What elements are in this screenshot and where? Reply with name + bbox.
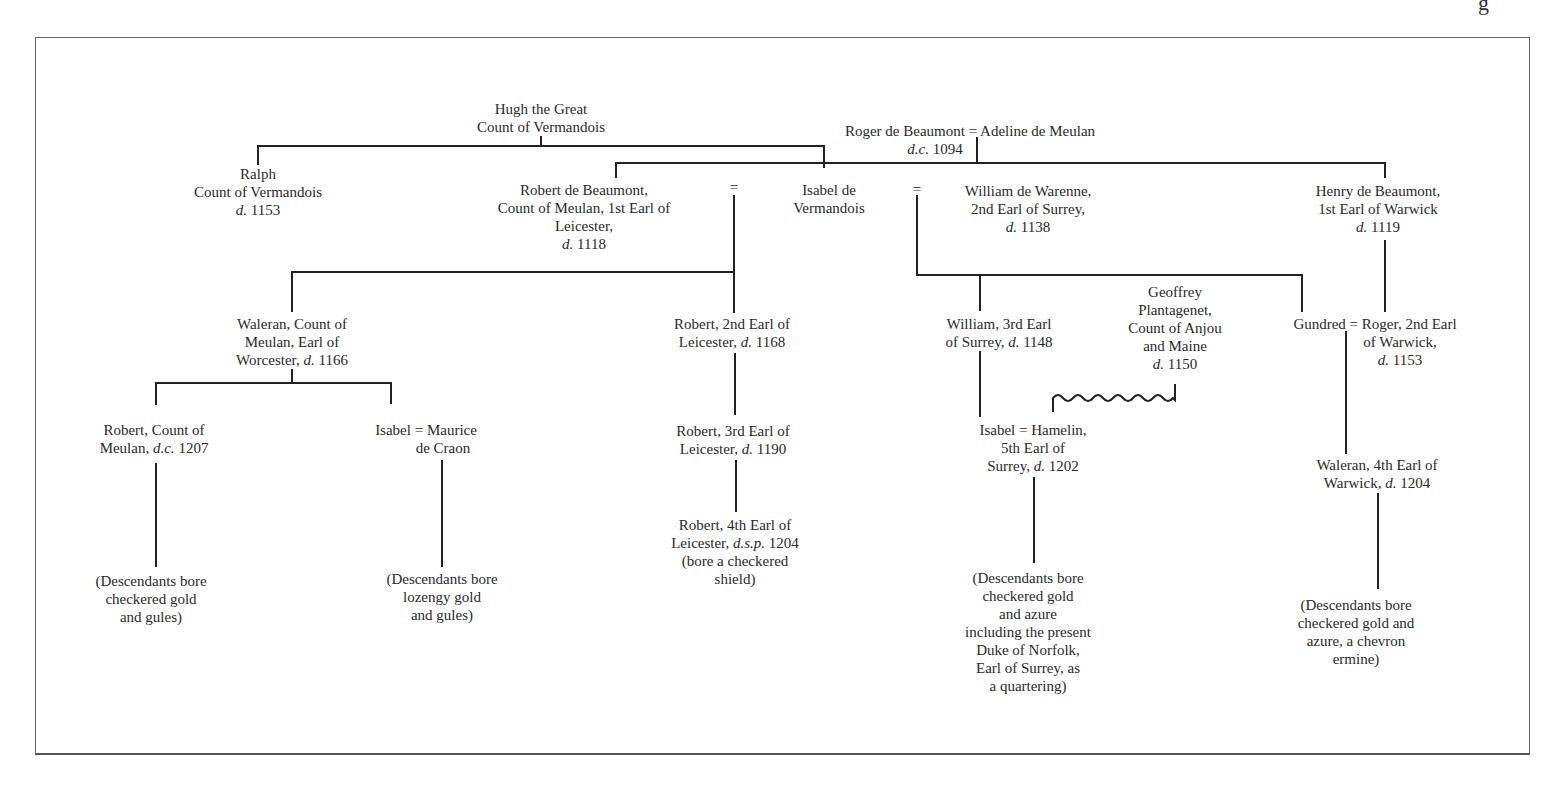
node-robert-2nd-earl-leicester: Robert, 2nd Earl of Leicester, d. 1168 [674,315,790,351]
node-isabel-maurice-de-craon: Isabel = Maurice de Craon [375,421,477,457]
note-descendants-warwick: (Descendants bore checkered gold and azu… [1298,596,1415,668]
node-robert-de-beaumont: Robert de Beaumont, Count of Meulan, 1st… [498,181,670,253]
node-waleran-count-of-meulan: Waleran, Count of Meulan, Earl of Worces… [236,315,348,369]
node-william-de-warenne: William de Warenne, 2nd Earl of Surrey, … [965,182,1092,236]
node-waleran-4th-earl-warwick: Waleran, 4th Earl of Warwick, d. 1204 [1316,456,1437,492]
note-descendants-meulan: (Descendants bore checkered gold and gul… [95,572,206,626]
marriage-symbol-robert-isabel: = [730,178,738,196]
marriage-symbol: = [969,123,977,139]
node-henry-de-beaumont: Henry de Beaumont, 1st Earl of Warwick d… [1316,182,1441,236]
node-robert-count-of-meulan: Robert, Count of Meulan, d.c. 1207 [100,421,209,457]
node-robert-4th-earl-leicester: Robert, 4th Earl of Leicester, d.s.p. 12… [671,516,799,588]
node-geoffrey-plantagenet: Geoffrey Plantagenet, Count of Anjou and… [1128,283,1221,373]
node-isabel-hamelin: Isabel = Hamelin, 5th Earl of Surrey, d.… [979,421,1086,475]
node-isabel-de-vermandois: Isabel de Vermandois [793,181,865,217]
node-william-3rd-earl-surrey: William, 3rd Earl of Surrey, d. 1148 [945,315,1052,351]
note-descendants-surrey: (Descendants bore checkered gold and azu… [965,569,1091,695]
family-tree-lines [0,0,1563,795]
node-robert-3rd-earl-leicester: Robert, 3rd Earl of Leicester, d. 1190 [676,422,789,458]
node-roger-de-beaumont: Roger de Beaumont = Adeline de Meulan d.… [845,122,1095,158]
note-descendants-craon: (Descendants bore lozengy gold and gules… [386,570,497,624]
node-ralph: Ralph Count of Vermandois d. 1153 [194,165,322,219]
marriage-symbol-isabel-william: = [913,180,921,198]
node-gundred-roger-2nd-earl-warwick: Gundred = Roger, 2nd Earl of Warwick, d.… [1293,315,1456,369]
node-hugh-the-great: Hugh the Great Count of Vermandois [477,100,605,136]
